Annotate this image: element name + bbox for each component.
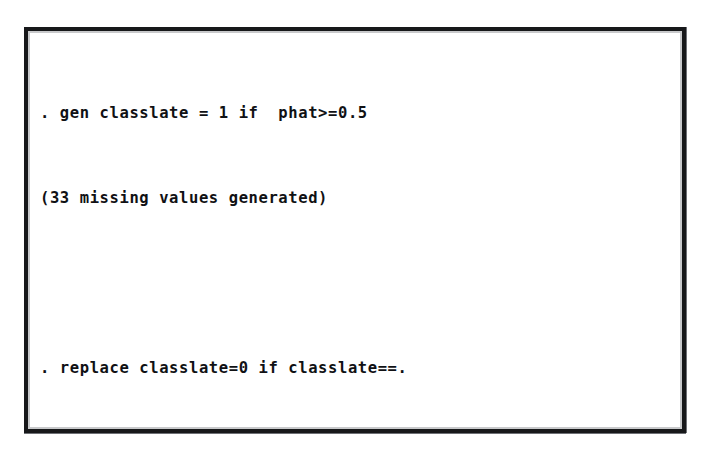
console-line-gen-result: (33 missing values generated) — [40, 188, 676, 209]
console-window-frame: . gen classlate = 1 if phat>=0.5 (33 mis… — [24, 27, 686, 433]
console-line-replace-command: . replace classlate=0 if classlate==. — [40, 358, 676, 379]
console-window-inner: . gen classlate = 1 if phat>=0.5 (33 mis… — [28, 31, 682, 429]
console-output-text: . gen classlate = 1 if phat>=0.5 (33 mis… — [40, 39, 676, 425]
console-line-gen-command: . gen classlate = 1 if phat>=0.5 — [40, 103, 676, 124]
console-line-blank-1 — [40, 273, 676, 294]
screenshot-root: . gen classlate = 1 if phat>=0.5 (33 mis… — [0, 0, 711, 456]
